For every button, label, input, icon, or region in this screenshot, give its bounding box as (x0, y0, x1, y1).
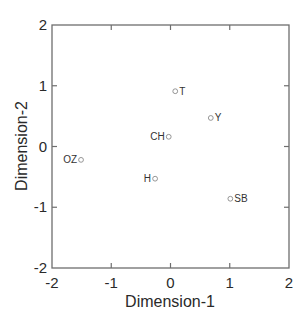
y-tick-label: 2 (39, 16, 47, 33)
circle-marker-icon (79, 157, 84, 162)
circle-marker-icon (173, 89, 178, 94)
y-tick-labels: -2-1012 (34, 16, 47, 276)
data-point: OZ (63, 154, 83, 165)
x-tick-label: 2 (285, 274, 293, 291)
data-point: Y (208, 112, 221, 123)
point-label: Y (215, 112, 222, 123)
axis-ticks (52, 25, 289, 268)
data-points: TYCHOZHSB (63, 86, 248, 205)
circle-marker-icon (228, 196, 233, 201)
scatter-chart: -2-1012 -2-1012 TYCHOZHSB Dimension-1 Di… (0, 0, 305, 320)
plot-frame (52, 25, 289, 268)
x-tick-label: 1 (226, 274, 234, 291)
point-label: OZ (63, 154, 77, 165)
y-tick-label: 0 (39, 138, 47, 155)
x-axis-title: Dimension-1 (125, 293, 215, 310)
data-point: T (173, 86, 186, 97)
point-label: SB (234, 193, 248, 204)
circle-marker-icon (166, 134, 171, 139)
x-tick-label: -2 (45, 274, 58, 291)
x-tick-label: -1 (105, 274, 118, 291)
point-label: H (144, 173, 151, 184)
data-point: SB (228, 193, 248, 204)
x-tick-label: 0 (166, 274, 174, 291)
circle-marker-icon (208, 116, 213, 121)
circle-marker-icon (153, 176, 158, 181)
point-label: CH (150, 131, 164, 142)
y-tick-label: -1 (34, 198, 47, 215)
point-label: T (179, 86, 185, 97)
data-point: CH (150, 131, 171, 142)
y-tick-label: -2 (34, 259, 47, 276)
x-tick-labels: -2-1012 (45, 274, 293, 291)
y-tick-label: 1 (39, 77, 47, 94)
data-point: H (144, 173, 158, 184)
y-axis-title: Dimension-2 (13, 101, 30, 191)
